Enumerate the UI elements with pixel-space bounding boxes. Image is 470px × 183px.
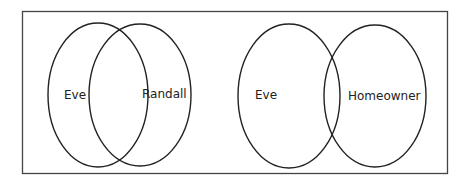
set-eve-label: Eve — [255, 88, 277, 102]
set-randall-label: Randall — [142, 87, 187, 101]
set-eve-label: Eve — [64, 88, 86, 102]
set-homeowner-label: Homeowner — [348, 89, 421, 103]
venn-diagrams: Eve Randall Eve Homeowner — [0, 0, 470, 183]
